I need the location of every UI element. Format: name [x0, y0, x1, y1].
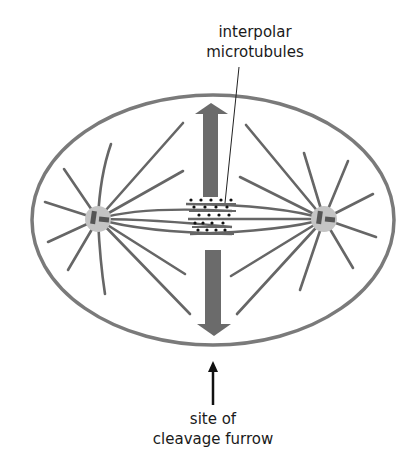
centriole-icon	[325, 217, 335, 223]
interpolar-leader-line	[225, 67, 239, 203]
label-line: site of	[133, 409, 293, 429]
label-line: cleavage furrow	[133, 429, 293, 449]
cleavage-furrow-label: site of cleavage furrow	[133, 409, 293, 449]
mitotic-spindle-diagram	[0, 0, 416, 471]
label-line: interpolar	[185, 22, 325, 42]
cleavage-pointer-arrow-icon	[208, 361, 218, 405]
label-line: microtubules	[185, 42, 325, 62]
right-centrosome	[311, 206, 337, 232]
force-arrow-up-icon	[195, 103, 228, 197]
force-arrow-down-icon	[197, 250, 231, 336]
left-centrosome	[85, 206, 111, 232]
interpolar-microtubules-label: interpolar microtubules	[185, 22, 325, 62]
centriole-icon	[99, 217, 109, 223]
